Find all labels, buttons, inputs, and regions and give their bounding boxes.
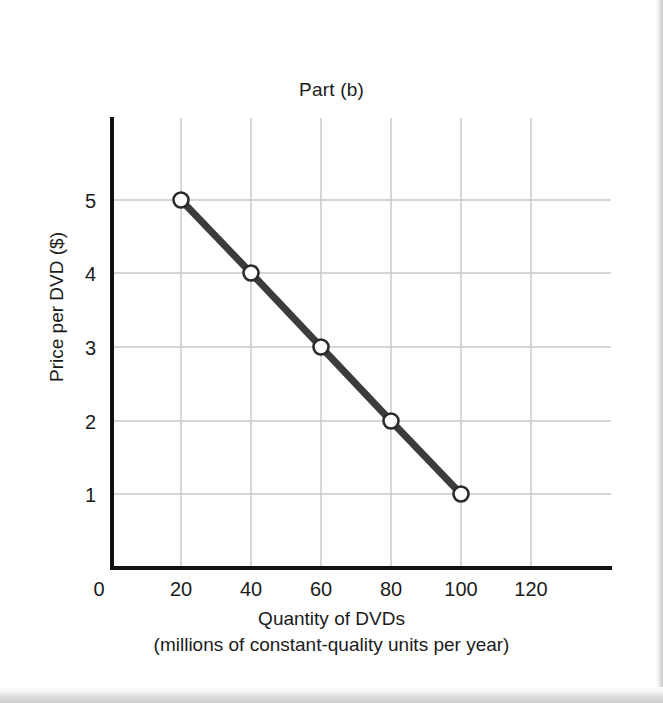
page-edge-right xyxy=(655,0,663,703)
y-tick-labels: 5 4 3 2 1 xyxy=(85,190,96,506)
data-point-marker xyxy=(314,340,329,355)
figure-canvas: Part (b) xyxy=(0,0,663,703)
y-tick-label: 4 xyxy=(85,263,96,285)
page-edge-bottom xyxy=(0,687,663,703)
data-point-marker xyxy=(244,266,259,281)
data-point-marker xyxy=(384,414,399,429)
x-axis-label-group: Quantity of DVDs (millions of constant-q… xyxy=(0,606,663,658)
x-axis-label-sub: (millions of constant-quality units per … xyxy=(0,632,663,658)
x-axis-label: Quantity of DVDs xyxy=(0,606,663,632)
x-tick-label: 0 xyxy=(93,578,104,600)
x-tick-labels: 0 20 40 60 80 100 120 xyxy=(93,578,547,600)
x-tick-label: 80 xyxy=(380,578,402,600)
horizontal-gridlines xyxy=(111,200,611,494)
y-axis-label: Price per DVD ($) xyxy=(46,187,68,427)
vertical-gridlines xyxy=(181,118,531,568)
data-point-marker xyxy=(174,193,189,208)
x-tick-label: 120 xyxy=(514,578,547,600)
y-tick-label: 2 xyxy=(85,411,96,433)
demand-curve-plot: 5 4 3 2 1 0 20 40 60 80 100 120 xyxy=(0,0,663,703)
x-tick-label: 60 xyxy=(310,578,332,600)
x-tick-label: 20 xyxy=(170,578,192,600)
x-tick-label: 40 xyxy=(240,578,262,600)
data-point-marker xyxy=(454,487,469,502)
x-tick-label: 100 xyxy=(444,578,477,600)
y-tick-label: 1 xyxy=(85,484,96,506)
y-tick-label: 5 xyxy=(85,190,96,212)
y-tick-label: 3 xyxy=(85,337,96,359)
